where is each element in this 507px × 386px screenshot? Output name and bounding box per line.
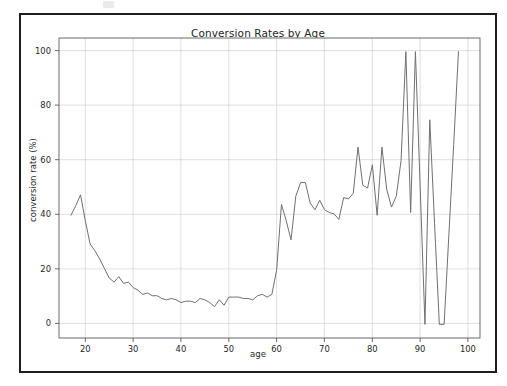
y-tick-label-100: 100 xyxy=(35,46,51,56)
y-tick-label-60: 60 xyxy=(40,155,51,165)
scan-artifact xyxy=(103,1,114,8)
y-axis-label: conversion rate (%) xyxy=(28,110,38,250)
y-tick-label-0: 0 xyxy=(46,318,51,328)
figure-inner: Conversion Rates by Age xyxy=(21,15,495,371)
figure-frame: Conversion Rates by Age xyxy=(19,13,497,373)
y-tick-label-20: 20 xyxy=(40,264,51,274)
y-axis-ticks: 0 20 40 60 80 100 xyxy=(35,46,59,329)
screenshot-page: Conversion Rates by Age xyxy=(0,0,507,386)
x-axis-label: age xyxy=(21,349,495,359)
y-tick-label-40: 40 xyxy=(40,209,51,219)
line-chart-plot: 0 20 40 60 80 100 xyxy=(21,15,495,371)
y-tick-label-80: 80 xyxy=(40,100,51,110)
